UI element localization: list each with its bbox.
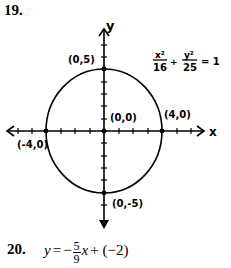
point-label-0-neg5: (0,-5) bbox=[112, 198, 143, 209]
y-axis-label: y bbox=[106, 18, 115, 33]
point-label-0-0: (0,0) bbox=[110, 112, 137, 123]
problem-20-number: 20. bbox=[7, 241, 26, 258]
ellipse-graph: y x (0,5) (0,0) (4,0) (-4,0) (0,-5) x² 1… bbox=[0, 0, 231, 240]
y-axis bbox=[99, 29, 109, 226]
point-label-4-0: (4,0) bbox=[164, 109, 191, 120]
ellipse-equation: x² 16 + y² 25 = 1 bbox=[153, 50, 220, 73]
svg-text:+: + bbox=[170, 57, 178, 67]
x-axis-label: x bbox=[209, 125, 217, 139]
svg-text:16: 16 bbox=[153, 62, 167, 73]
point-label-0-5: (0,5) bbox=[68, 54, 95, 65]
fraction-5-9: 5 9 bbox=[73, 240, 81, 265]
svg-text:25: 25 bbox=[183, 62, 197, 73]
y-axis-down-arrow bbox=[99, 220, 109, 229]
svg-text:y²: y² bbox=[184, 50, 194, 60]
svg-text:= 1: = 1 bbox=[201, 56, 220, 67]
svg-text:x²: x² bbox=[155, 50, 165, 60]
point-label-neg4-0: (-4,0) bbox=[17, 139, 48, 150]
line-equation: y = − 5 9 x + (−2) bbox=[44, 238, 128, 263]
